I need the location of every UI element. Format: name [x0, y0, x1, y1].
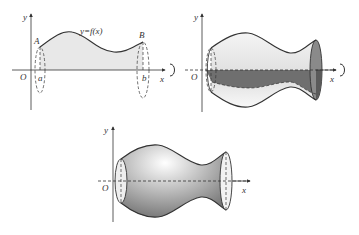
figure-region-under-curve: y x O y=f(x) A B a b: [12, 12, 175, 110]
x-axis-label: x: [241, 185, 246, 195]
figure-solid-of-revolution: y x O: [98, 125, 250, 222]
y-axis-label: y: [193, 12, 198, 22]
rotation-arrow-icon: [340, 64, 345, 76]
point-a-label: A: [33, 36, 40, 46]
point-b-label: B: [139, 30, 145, 40]
b-label: b: [142, 73, 147, 83]
x-axis-label: x: [329, 74, 334, 84]
figure-partial-revolution: y x O: [185, 12, 345, 112]
y-axis-label: y: [103, 125, 108, 135]
a-label: a: [38, 73, 43, 83]
curve-label: y=f(x): [79, 26, 103, 36]
shaded-region: [40, 32, 143, 70]
diagram-canvas: y x O y=f(x) A B a b y x O: [0, 0, 359, 235]
origin-label: O: [20, 72, 27, 82]
x-axis-label: x: [159, 74, 164, 84]
origin-label: O: [102, 183, 109, 193]
y-axis-label: y: [22, 12, 27, 22]
rotation-arrow-icon: [170, 64, 175, 76]
origin-label: O: [191, 72, 198, 82]
